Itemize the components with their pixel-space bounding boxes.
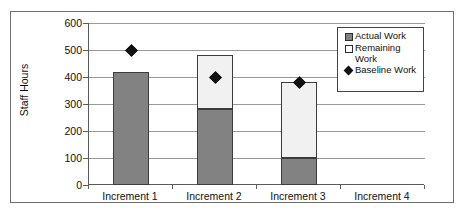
- x-tick-mark-1: [172, 185, 173, 189]
- bar-increment-3-actual: [281, 158, 317, 185]
- gridline-600: [89, 23, 425, 24]
- legend-label-remaining-work: Remaining Work: [355, 43, 420, 64]
- x-axis-label-increment-2: Increment 2: [172, 190, 256, 202]
- chart-legend: Actual Work Remaining Work Baseline Work: [337, 27, 424, 92]
- y-axis-tick-labels: 600 500 400 300 200 100 0: [42, 0, 82, 214]
- y-tick-label-500: 500: [48, 45, 82, 56]
- filled-square-swatch-icon: [342, 31, 355, 42]
- hollow-square-swatch-icon: [342, 43, 355, 54]
- y-tick-label-0: 0: [48, 180, 82, 191]
- legend-item-remaining-work: Remaining Work: [342, 43, 420, 64]
- x-tick-mark-4: [424, 185, 425, 189]
- x-tick-mark-2: [256, 185, 257, 189]
- x-tick-mark-0: [88, 185, 89, 189]
- x-tick-mark-3: [340, 185, 341, 189]
- legend-label-actual-work: Actual Work: [355, 31, 406, 42]
- y-tick-label-600: 600: [48, 18, 82, 29]
- legend-label-baseline-work: Baseline Work: [355, 65, 416, 76]
- filled-diamond-marker-icon: [342, 65, 355, 76]
- y-axis-title: Staff Hours: [18, 40, 30, 140]
- y-tick-label-200: 200: [48, 126, 82, 137]
- stacked-bar-chart: Staff Hours 600 500 400 300 200 100 0: [0, 0, 466, 214]
- bar-increment-2-actual: [197, 109, 233, 185]
- x-axis-label-increment-1: Increment 1: [88, 190, 172, 202]
- legend-item-baseline-work: Baseline Work: [342, 65, 420, 76]
- x-axis-label-increment-4: Increment 4: [340, 190, 424, 202]
- y-tick-label-300: 300: [48, 99, 82, 110]
- baseline-marker-increment-1: [125, 44, 138, 57]
- bar-increment-3-remaining: [281, 82, 317, 158]
- y-tick-label-100: 100: [48, 153, 82, 164]
- x-axis-label-increment-3: Increment 3: [256, 190, 340, 202]
- bar-increment-1-actual: [113, 72, 149, 185]
- legend-item-actual-work: Actual Work: [342, 31, 420, 42]
- y-tick-label-400: 400: [48, 72, 82, 83]
